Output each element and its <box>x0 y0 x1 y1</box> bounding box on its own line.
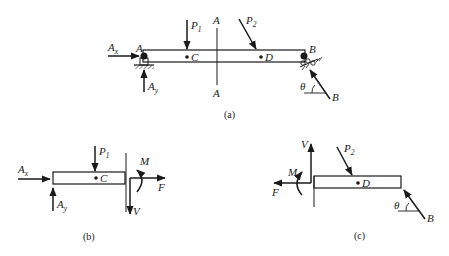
label-b-end: B <box>309 43 316 55</box>
section-label-bottom: A <box>212 87 220 99</box>
panel-c: D P2 V F M θ B (c) <box>271 138 434 242</box>
label-f: F <box>271 186 279 198</box>
beam-ab <box>143 50 305 62</box>
label-ax: Ax <box>107 41 119 56</box>
point-d <box>259 55 263 59</box>
caption-c: (c) <box>354 230 365 242</box>
label-p2: P2 <box>343 142 355 157</box>
moment-m-arrow <box>137 170 142 192</box>
label-b-force: B <box>427 212 434 224</box>
label-p1: P1 <box>98 145 109 160</box>
label-b-force: B <box>332 91 339 103</box>
label-c: C <box>100 172 108 184</box>
section-label-top: A <box>212 14 220 26</box>
roller-support-b <box>300 53 322 71</box>
caption-b: (b) <box>83 231 95 243</box>
label-p1: P1 <box>190 19 201 34</box>
label-theta: θ <box>394 199 400 211</box>
label-v: V <box>133 205 141 217</box>
theta-arc <box>406 203 409 211</box>
label-ay: Ay <box>56 198 68 213</box>
theta-arc <box>312 85 315 93</box>
point-d <box>356 181 360 185</box>
caption-a: (a) <box>224 109 235 121</box>
label-a-end: A <box>135 42 143 54</box>
label-d: D <box>361 177 370 189</box>
beam-diagram: C D A B A A P1 P2 Ax Ay θ B (a) C <box>0 0 449 256</box>
pin-support-a <box>134 53 154 70</box>
beam-segment-left <box>53 172 125 184</box>
label-c: C <box>191 51 199 63</box>
point-c <box>94 176 98 180</box>
label-ax: Ax <box>17 163 29 178</box>
label-d: D <box>264 51 273 63</box>
label-m: M <box>139 155 150 167</box>
point-c <box>185 55 189 59</box>
reaction-b-arrow <box>310 70 330 99</box>
label-ay: Ay <box>147 80 159 95</box>
label-m: M <box>287 166 298 178</box>
panel-a: C D A B A A P1 P2 Ax Ay θ B (a) <box>107 14 339 121</box>
label-f: F <box>157 181 165 193</box>
label-theta: θ <box>300 80 306 92</box>
label-p2: P2 <box>245 14 257 29</box>
label-v: V <box>301 138 309 150</box>
panel-b: C P1 Ax Ay V F M (b) <box>17 145 165 243</box>
